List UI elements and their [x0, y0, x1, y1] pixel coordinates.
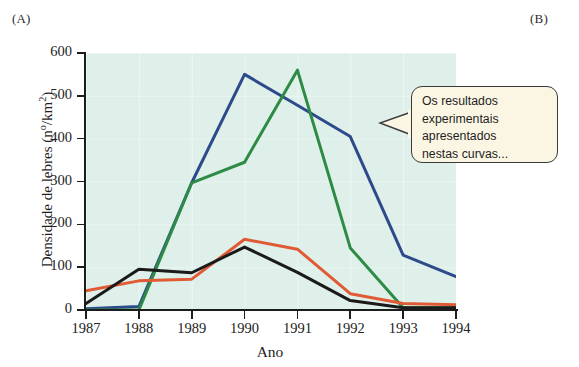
- x-tick-label-1994: 1994: [428, 320, 484, 337]
- plot-area: [86, 53, 456, 310]
- y-tick-label-0: 0: [30, 300, 72, 317]
- x-tick-1987: [85, 311, 87, 319]
- y-tick-label-400: 400: [30, 129, 72, 146]
- x-tick-label-1992: 1992: [322, 320, 378, 337]
- x-tick-1993: [402, 311, 404, 319]
- x-tick-1990: [244, 311, 246, 319]
- x-axis-title: Ano: [180, 343, 360, 361]
- y-tick-label-600: 600: [30, 43, 72, 60]
- y-tick-200: [77, 224, 86, 226]
- x-tick-1989: [191, 311, 193, 319]
- y-tick-300: [77, 181, 86, 183]
- figure-root: (A) (B) Densidade de lebres (no/km2) 600…: [0, 0, 579, 367]
- x-tick-1988: [138, 311, 140, 319]
- y-tick-100: [77, 266, 86, 268]
- y-tick-label-500: 500: [30, 86, 72, 103]
- x-tick-1992: [349, 311, 351, 319]
- x-tick-1994: [455, 311, 457, 319]
- series-canvas: [86, 53, 456, 310]
- y-tick-label-100: 100: [30, 257, 72, 274]
- x-tick-label-1991: 1991: [269, 320, 325, 337]
- x-tick-1991: [297, 311, 299, 319]
- y-tick-500: [77, 95, 86, 97]
- x-tick-label-1993: 1993: [375, 320, 431, 337]
- panel-label-b: (B): [530, 11, 548, 27]
- y-tick-label-200: 200: [30, 214, 72, 231]
- callout-text: Os resultados experimentais apresentados…: [422, 93, 551, 163]
- callout-annotation: Os resultados experimentais apresentados…: [411, 86, 558, 163]
- x-tick-label-1988: 1988: [111, 320, 167, 337]
- y-tick-400: [77, 138, 86, 140]
- x-tick-label-1989: 1989: [164, 320, 220, 337]
- y-tick-600: [77, 52, 86, 54]
- y-tick-label-300: 300: [30, 172, 72, 189]
- y-axis-tick-labels: 6005004003002001000: [20, 0, 72, 367]
- x-tick-label-1990: 1990: [217, 320, 273, 337]
- x-tick-label-1987: 1987: [58, 320, 114, 337]
